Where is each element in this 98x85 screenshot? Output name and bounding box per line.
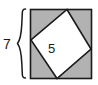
figure-canvas: 7 5 [0,0,98,85]
inner-length-label: 5 [48,41,55,56]
side-length-label: 7 [3,36,11,52]
geometry-figure: 7 5 [0,0,98,85]
height-brace [18,9,26,78]
